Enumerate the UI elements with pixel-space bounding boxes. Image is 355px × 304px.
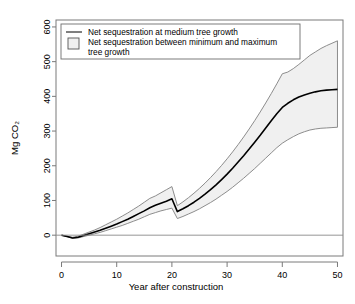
sequestration-line-chart: 0100200300400500600 01020304050 Year aft… [0,0,355,304]
y-tick-label: 600 [42,19,52,34]
x-tick-label: 10 [112,270,122,280]
y-tick-label: 300 [42,124,52,139]
legend-square-swatch [68,38,79,49]
legend-item-range-line2: tree growth [88,47,130,57]
legend-item-medium-growth: Net sequestration at medium tree growth [88,27,238,37]
y-tick-label: 200 [42,158,52,173]
x-tick-label: 20 [167,270,177,280]
x-tick-label: 0 [59,270,64,280]
x-tick-label: 30 [222,270,232,280]
y-tick-label: 0 [42,233,52,238]
chart-figure: 0100200300400500600 01020304050 Year aft… [0,0,355,304]
x-tick-label: 40 [277,270,287,280]
y-tick-label: 500 [42,54,52,69]
y-axis-title: Mg CO₂ [9,121,20,155]
chart-legend: Net sequestration at medium tree growth … [61,24,300,59]
y-tick-label: 400 [42,89,52,104]
x-axis-title: Year after construction [129,281,224,292]
x-tick-label: 50 [332,270,342,280]
legend-item-range-line1: Net sequestration between minimum and ma… [88,37,277,47]
y-tick-label: 100 [42,193,52,208]
